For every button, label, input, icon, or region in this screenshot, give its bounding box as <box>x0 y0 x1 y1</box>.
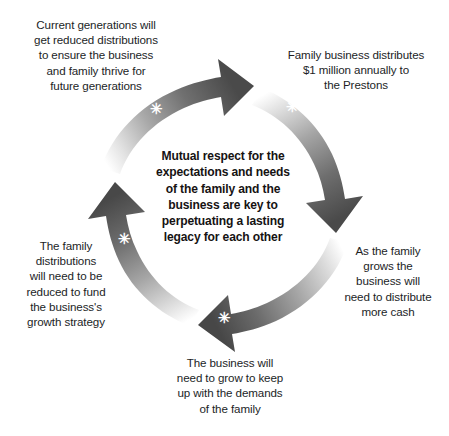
cycle-label-right: As the family grows the business will ne… <box>330 243 446 319</box>
marker-asterisk-right: ✳ <box>286 98 299 115</box>
cycle-label-left: The family distributions will need to be… <box>8 238 124 329</box>
cycle-label-top-right: Family business distributes $1 million a… <box>268 47 444 93</box>
marker-asterisk-top: ✳ <box>150 100 163 117</box>
cycle-label-top-left: Current generations will get reduced dis… <box>8 17 184 93</box>
cycle-diagram: ✳ ✳ ✳ ✳ Current generations will get red… <box>0 0 449 436</box>
marker-asterisk-bottom: ✳ <box>218 309 231 326</box>
cycle-label-bottom: The business will need to grow to keep u… <box>145 355 315 416</box>
cycle-center-text: Mutual respect for the expectations and … <box>137 148 309 246</box>
arrow-bottom: ✳ <box>198 238 348 352</box>
